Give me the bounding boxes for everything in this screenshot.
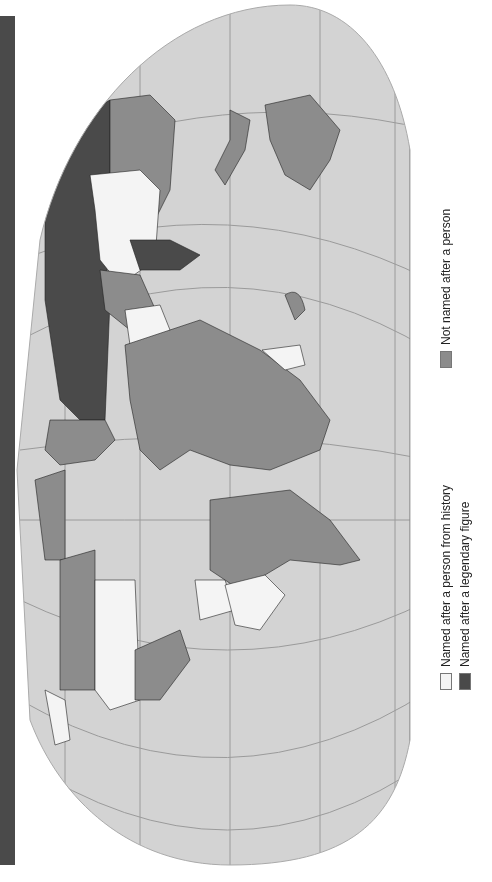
legend-swatch-not-named bbox=[440, 351, 452, 368]
region-antarctica bbox=[410, 130, 430, 760]
region-usa-named bbox=[95, 580, 140, 710]
legend-item-not-named: Not named after a person bbox=[439, 209, 453, 368]
world-map bbox=[0, 0, 430, 882]
legend-swatch-historical bbox=[440, 673, 452, 690]
legend: Named after a person from history Named … bbox=[430, 0, 492, 882]
legend-label-legendary: Named after a legendary figure bbox=[458, 502, 472, 667]
legend-label-not-named: Not named after a person bbox=[439, 209, 453, 345]
legend-item-legendary: Named after a legendary figure bbox=[458, 502, 472, 690]
map-svg bbox=[0, 0, 430, 882]
legend-item-historical: Named after a person from history bbox=[439, 485, 453, 690]
region-canada bbox=[60, 550, 95, 690]
legend-label-historical: Named after a person from history bbox=[439, 485, 453, 667]
legend-swatch-legendary bbox=[459, 673, 471, 690]
